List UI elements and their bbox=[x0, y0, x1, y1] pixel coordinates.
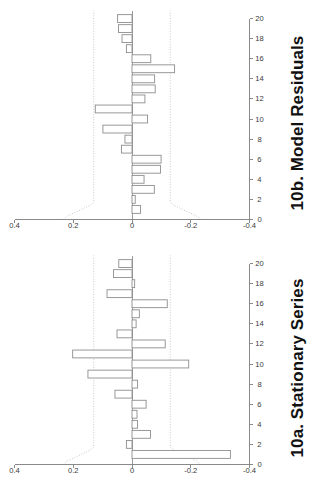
lag-axis-tick-label-model-residuals: 2 bbox=[257, 194, 261, 203]
acf-bar-lag-8-stationary-series bbox=[132, 380, 138, 388]
panel-b-title: 10b. Model Residuals bbox=[287, 0, 307, 245]
value-axis-tick-label-model-residuals: 0.2 bbox=[67, 221, 78, 230]
acf-bar-lag-15-stationary-series bbox=[132, 309, 139, 317]
acf-bar-lag-9-model-residuals bbox=[102, 125, 131, 133]
lag-axis-tick-label-model-residuals: 20 bbox=[255, 14, 263, 23]
lag-axis-tick-label-model-residuals: 16 bbox=[255, 54, 263, 63]
acf-chart-model-residuals: -0.4-0.200.20.402468101214161820 bbox=[0, 0, 283, 245]
acf-bar-lag-2-stationary-series bbox=[126, 440, 132, 448]
panel-b-rotated-canvas: -0.4-0.200.20.402468101214161820 10b. Mo… bbox=[0, 0, 311, 245]
acf-bar-lag-1-model-residuals bbox=[132, 205, 141, 213]
lag-axis-tick-label-stationary-series: 10 bbox=[255, 359, 263, 368]
acf-bar-lag-16-model-residuals bbox=[132, 54, 151, 62]
acf-bar-lag-6-stationary-series bbox=[132, 400, 146, 408]
value-axis-tick-label-stationary-series: -0.4 bbox=[242, 466, 255, 475]
lag-axis-tick-label-model-residuals: 12 bbox=[255, 94, 263, 103]
lag-axis-tick-label-stationary-series: 14 bbox=[255, 319, 263, 328]
lag-axis-tick-label-stationary-series: 2 bbox=[257, 439, 261, 448]
acf-bar-lag-3-stationary-series bbox=[132, 430, 151, 438]
acf-bar-lag-10-stationary-series bbox=[132, 360, 189, 368]
acf-bar-lag-17-stationary-series bbox=[107, 289, 132, 297]
confidence-band-lower-model-residuals bbox=[170, 10, 200, 219]
acf-bar-lag-13-model-residuals bbox=[132, 84, 155, 92]
lag-axis-tick-label-model-residuals: 10 bbox=[255, 114, 263, 123]
lag-axis-tick-label-stationary-series: 8 bbox=[257, 379, 261, 388]
acf-bar-lag-14-model-residuals bbox=[132, 74, 155, 82]
panel-a-title: 10a. Stationary Series bbox=[287, 245, 307, 490]
acf-bar-lag-12-model-residuals bbox=[132, 95, 145, 103]
acf-bar-lag-5-model-residuals bbox=[132, 165, 160, 173]
panel-a-plot-area: -0.4-0.200.20.402468101214161820 bbox=[0, 245, 311, 490]
value-axis-tick-label-model-residuals: -0.4 bbox=[242, 221, 255, 230]
acf-bar-lag-14-stationary-series bbox=[132, 319, 136, 327]
acf-bar-lag-13-stationary-series bbox=[117, 329, 132, 337]
value-axis-tick-label-model-residuals: -0.2 bbox=[184, 221, 197, 230]
lag-axis-tick-label-model-residuals: 6 bbox=[257, 154, 261, 163]
lag-axis-tick-label-model-residuals: 4 bbox=[257, 174, 261, 183]
acf-bar-lag-11-model-residuals bbox=[95, 105, 132, 113]
lag-axis-tick-label-stationary-series: 0 bbox=[257, 460, 261, 469]
acf-bar-lag-6-model-residuals bbox=[132, 155, 161, 163]
acf-bar-lag-10-model-residuals bbox=[132, 115, 148, 123]
panel-b-plot-area: -0.4-0.200.20.402468101214161820 bbox=[0, 0, 311, 245]
value-axis-tick-label-stationary-series: -0.2 bbox=[184, 466, 197, 475]
acf-bar-lag-4-stationary-series bbox=[132, 420, 138, 428]
acf-bar-lag-17-model-residuals bbox=[126, 44, 132, 52]
lag-axis-tick-label-model-residuals: 14 bbox=[255, 74, 263, 83]
acf-bar-lag-19-model-residuals bbox=[118, 24, 132, 32]
panel-a-rotated-canvas: -0.4-0.200.20.402468101214161820 10a. St… bbox=[0, 245, 311, 490]
value-axis-tick-label-stationary-series: 0.4 bbox=[9, 466, 20, 475]
acf-bar-lag-4-model-residuals bbox=[132, 175, 144, 183]
acf-chart-stationary-series: -0.4-0.200.20.402468101214161820 bbox=[0, 245, 283, 490]
acf-bar-lag-11-stationary-series bbox=[72, 350, 131, 358]
acf-bar-lag-9-stationary-series bbox=[87, 370, 131, 378]
acf-bar-lag-15-model-residuals bbox=[132, 64, 175, 72]
confidence-band-upper-stationary-series bbox=[63, 255, 93, 464]
value-axis-tick-label-model-residuals: 0 bbox=[129, 221, 133, 230]
lag-axis-tick-label-model-residuals: 0 bbox=[257, 215, 261, 224]
lag-axis-tick-label-stationary-series: 18 bbox=[255, 279, 263, 288]
acf-bar-lag-18-model-residuals bbox=[122, 34, 132, 42]
acf-bar-lag-20-model-residuals bbox=[117, 14, 131, 22]
value-axis-tick-label-stationary-series: 0.2 bbox=[67, 466, 78, 475]
value-axis-tick-label-stationary-series: 0 bbox=[129, 466, 133, 475]
acf-bar-lag-3-model-residuals bbox=[132, 185, 154, 193]
acf-bar-lag-7-model-residuals bbox=[121, 145, 132, 153]
lag-axis-tick-label-stationary-series: 20 bbox=[255, 259, 263, 268]
lag-axis-tick-label-stationary-series: 4 bbox=[257, 419, 261, 428]
lag-axis-tick-label-model-residuals: 8 bbox=[257, 134, 261, 143]
panel-model-residuals: -0.4-0.200.20.402468101214161820 10b. Mo… bbox=[0, 0, 311, 245]
figure-root: -0.4-0.200.20.402468101214161820 10b. Mo… bbox=[0, 0, 311, 490]
acf-bar-lag-12-stationary-series bbox=[132, 340, 165, 348]
lag-axis-tick-label-stationary-series: 12 bbox=[255, 339, 263, 348]
acf-bar-lag-16-stationary-series bbox=[132, 299, 167, 307]
acf-bar-lag-18-stationary-series bbox=[132, 279, 135, 287]
acf-bar-lag-8-model-residuals bbox=[124, 135, 131, 143]
lag-axis-tick-label-stationary-series: 16 bbox=[255, 299, 263, 308]
lag-axis-tick-label-model-residuals: 18 bbox=[255, 34, 263, 43]
acf-bar-lag-2-model-residuals bbox=[132, 195, 135, 203]
acf-bar-lag-19-stationary-series bbox=[113, 269, 132, 277]
confidence-band-lower-stationary-series bbox=[170, 255, 200, 464]
lag-axis-tick-label-stationary-series: 6 bbox=[257, 399, 261, 408]
acf-bar-lag-1-stationary-series bbox=[132, 450, 230, 458]
acf-bar-lag-5-stationary-series bbox=[132, 410, 137, 418]
panel-stationary-series: -0.4-0.200.20.402468101214161820 10a. St… bbox=[0, 245, 311, 490]
confidence-band-upper-model-residuals bbox=[63, 10, 93, 219]
value-axis-tick-label-model-residuals: 0.4 bbox=[9, 221, 20, 230]
acf-bar-lag-7-stationary-series bbox=[114, 390, 131, 398]
acf-bar-lag-20-stationary-series bbox=[118, 259, 131, 267]
